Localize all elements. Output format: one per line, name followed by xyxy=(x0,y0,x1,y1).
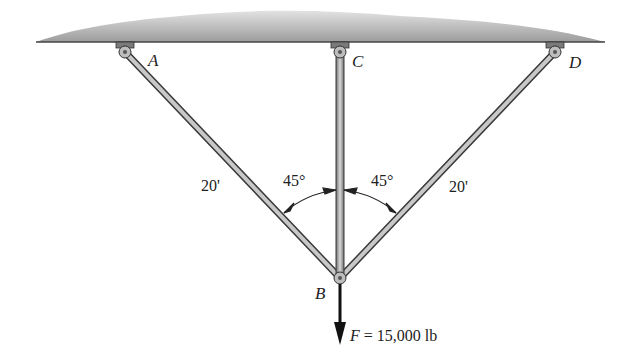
length-label-db: 20' xyxy=(449,178,468,195)
label-point-d: D xyxy=(568,53,582,72)
truss-diagram: A C D B 20' 20' 45° 45° F = 15,000 lb xyxy=(0,0,627,364)
angle-label-left: 45° xyxy=(283,172,305,189)
pin-joint-b xyxy=(334,272,346,284)
load-value: = 15,000 lb xyxy=(360,327,437,344)
angle-arc-left xyxy=(284,188,336,213)
length-label-ab: 20' xyxy=(201,177,220,194)
label-point-b: B xyxy=(315,284,326,303)
load-symbol: F xyxy=(349,327,360,344)
label-point-c: C xyxy=(352,52,364,71)
member-cb xyxy=(336,52,344,278)
angle-arc-right xyxy=(344,188,396,213)
ceiling-support xyxy=(36,11,605,42)
member-ab xyxy=(125,52,340,278)
load-label: F = 15,000 lb xyxy=(349,327,437,344)
member-db xyxy=(340,52,555,278)
angle-label-right: 45° xyxy=(371,172,393,189)
pin-support-c xyxy=(331,42,349,58)
label-point-a: A xyxy=(147,51,159,70)
load-arrow xyxy=(334,284,346,345)
